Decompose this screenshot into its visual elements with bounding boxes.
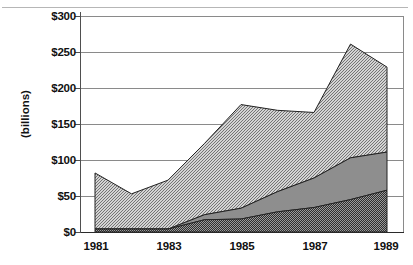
x-tick-label-1983: 1983 xyxy=(157,240,182,252)
x-tick-label-1985: 1985 xyxy=(230,240,255,252)
stacked-area-chart: $300 $250 $200 $150 $100 $50 $0 1981 198… xyxy=(0,0,413,265)
y-tick-label-0: $0 xyxy=(64,226,76,238)
y-tick-label-50: $50 xyxy=(57,190,76,202)
area-series-group xyxy=(95,44,387,232)
y-tick-label-300: $300 xyxy=(51,10,76,22)
x-tick-label-1989: 1989 xyxy=(374,240,399,252)
y-tick-label-150: $150 xyxy=(51,118,76,130)
x-tick-label-1981: 1981 xyxy=(84,240,109,252)
y-axis-title: (billions) xyxy=(19,69,31,159)
plot-canvas xyxy=(0,0,413,265)
y-tick-label-200: $200 xyxy=(51,82,76,94)
x-tick-label-1987: 1987 xyxy=(303,240,328,252)
y-tick-label-250: $250 xyxy=(51,46,76,58)
y-tick-label-100: $100 xyxy=(51,154,76,166)
